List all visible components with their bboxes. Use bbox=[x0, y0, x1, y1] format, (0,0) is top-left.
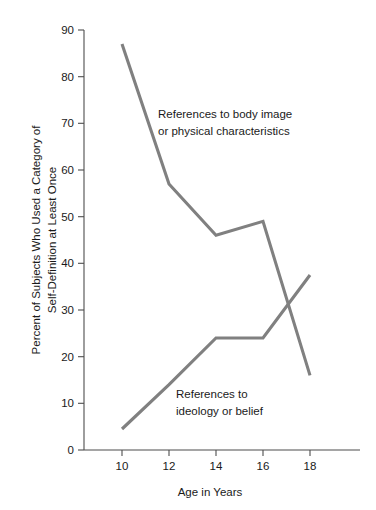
series-line-body-image bbox=[122, 44, 310, 375]
y-axis-ticks bbox=[78, 30, 84, 450]
x-tick-label-12: 12 bbox=[163, 460, 176, 472]
y-tick-label-70: 70 bbox=[61, 117, 74, 129]
y-axis-tick-labels: 0 10 20 30 40 50 60 70 80 90 bbox=[61, 24, 74, 456]
y-tick-label-40: 40 bbox=[61, 257, 74, 269]
x-tick-label-16: 16 bbox=[257, 460, 270, 472]
upper-annotation-line2: or physical characteristics bbox=[158, 125, 290, 137]
upper-annotation: References to body image or physical cha… bbox=[158, 108, 292, 137]
x-axis-ticks bbox=[122, 450, 310, 456]
x-axis-title: Age in Years bbox=[178, 486, 243, 498]
y-tick-label-50: 50 bbox=[61, 211, 74, 223]
x-tick-label-10: 10 bbox=[116, 460, 129, 472]
x-axis-tick-labels: 10 12 14 16 18 bbox=[116, 460, 317, 472]
lower-annotation-line2: ideology or belief bbox=[176, 405, 264, 417]
upper-annotation-line1: References to body image bbox=[158, 108, 292, 120]
x-tick-label-18: 18 bbox=[304, 460, 317, 472]
y-tick-label-60: 60 bbox=[61, 164, 74, 176]
lower-annotation-line1: References to bbox=[176, 388, 248, 400]
y-tick-label-20: 20 bbox=[61, 351, 74, 363]
y-tick-label-0: 0 bbox=[68, 444, 74, 456]
y-axis-title: Percent of Subjects Who Used a Category … bbox=[30, 125, 58, 355]
lower-annotation: References to ideology or belief bbox=[176, 388, 264, 417]
y-tick-label-10: 10 bbox=[61, 397, 74, 409]
chart-canvas: 0 10 20 30 40 50 60 70 80 90 10 12 14 16… bbox=[0, 0, 376, 510]
y-tick-label-80: 80 bbox=[61, 71, 74, 83]
y-axis-title-line2: Self-Definition at Least Once bbox=[46, 167, 58, 313]
line-chart: 0 10 20 30 40 50 60 70 80 90 10 12 14 16… bbox=[0, 0, 376, 510]
y-tick-label-90: 90 bbox=[61, 24, 74, 36]
x-tick-label-14: 14 bbox=[210, 460, 223, 472]
y-axis-title-line1: Percent of Subjects Who Used a Category … bbox=[30, 125, 42, 355]
y-tick-label-30: 30 bbox=[61, 304, 74, 316]
